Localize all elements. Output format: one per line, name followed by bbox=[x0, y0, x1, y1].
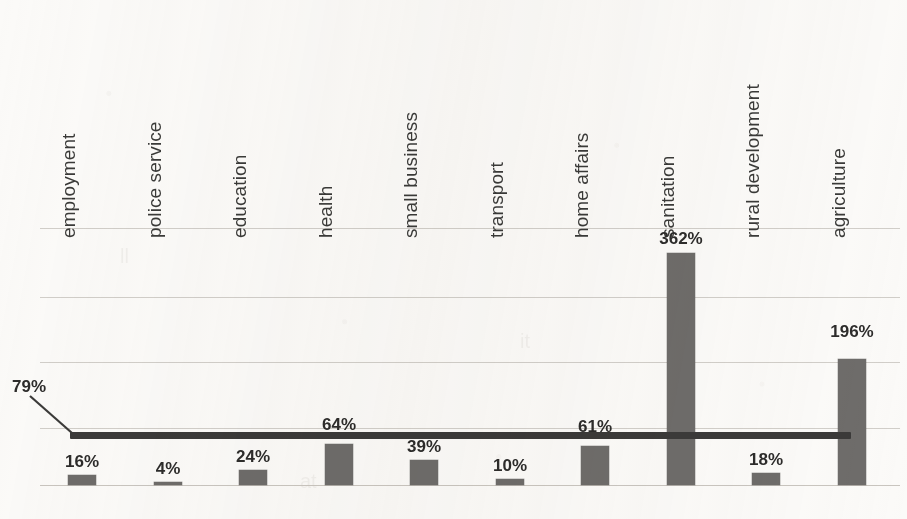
callout-leader-line bbox=[0, 0, 907, 519]
plot-area: employment police service education heal… bbox=[0, 0, 907, 519]
bar-chart: employment police service education heal… bbox=[0, 0, 907, 519]
